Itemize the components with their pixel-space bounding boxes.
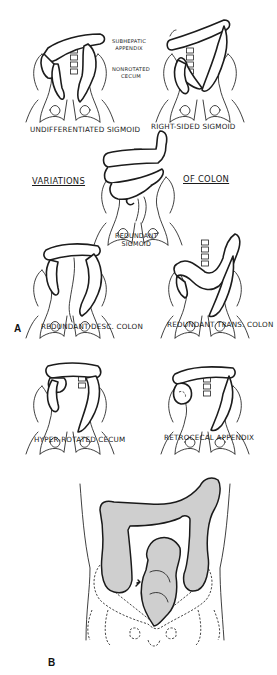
panel-letter-b: B	[48, 657, 55, 668]
label-redundant-desc-colon: REDUNDANT DESC. COLON	[41, 322, 143, 331]
annotation-line: APPENDIX	[112, 45, 146, 52]
label-line: REDUNDANT	[115, 232, 158, 240]
drawing-redundant-sigmoid	[94, 131, 182, 245]
label-retrocecal-appendix: RETROCECAL APPENDIX	[164, 433, 254, 442]
label-line: SIGMOID	[115, 240, 158, 248]
colon-variations-diagram	[0, 0, 277, 675]
label-hyper-rotated-cecum: HYPER-ROTATED CECUM	[34, 435, 125, 444]
title-of-colon: OF COLON	[183, 174, 229, 184]
drawing-undifferentiated-sigmoid	[26, 34, 114, 122]
drawing-panel-b-abdomen	[80, 478, 230, 646]
label-right-sided-sigmoid: RIGHT-SIDED SIGMOID	[151, 122, 236, 131]
annotation-line: NONROTATED	[112, 66, 150, 73]
annotation-subhepatic-appendix: SUBHEPATIC APPENDIX	[112, 38, 146, 51]
drawing-right-sided-sigmoid	[156, 20, 244, 122]
label-redundant-trans-colon: REDUNDANT TRANS. COLON	[167, 320, 273, 329]
label-redundant-sigmoid: REDUNDANT SIGMOID	[115, 232, 158, 248]
label-undifferentiated-sigmoid: UNDIFFERENTIATED SIGMOID	[30, 125, 140, 134]
panel-letter-a: A	[14, 323, 21, 334]
annotation-nonrotated-cecum: NONROTATED CECUM	[112, 66, 150, 79]
title-variations: VARIATIONS	[32, 176, 85, 186]
annotation-line: CECUM	[112, 73, 150, 80]
annotation-line: SUBHEPATIC	[112, 38, 146, 45]
